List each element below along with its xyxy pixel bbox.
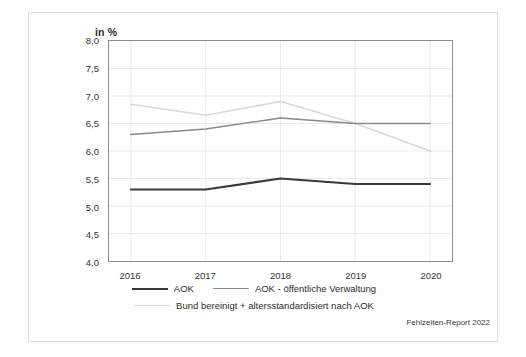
chart-legend: AOKAOK - öffentliche VerwaltungBund bere… [60, 283, 460, 317]
legend-label: AOK [174, 283, 194, 294]
chart-figure: in % 8,07,57,06,56,05,55,04,54,0 2016201… [0, 0, 526, 357]
legend-label: AOK - öffentliche Verwaltung [255, 283, 376, 294]
y-tick-label: 6,0 [86, 146, 99, 157]
legend-row: Bund bereinigt + altersstandardisiert na… [60, 300, 460, 311]
legend-item[interactable]: AOK [132, 283, 194, 294]
y-tick-label: 7,5 [86, 62, 99, 73]
y-axis-tick-labels: 8,07,57,06,56,05,55,04,54,0 [60, 34, 102, 274]
legend-line-swatch [213, 288, 249, 289]
legend-item[interactable]: Bund bereinigt + altersstandardisiert na… [134, 300, 374, 311]
legend-line-swatch [134, 305, 170, 306]
y-tick-label: 4,5 [86, 229, 99, 240]
x-tick-label: 2019 [345, 270, 366, 281]
x-tick-label: 2018 [270, 270, 291, 281]
x-tick-label: 2016 [119, 270, 140, 281]
y-tick-label: 8,0 [86, 35, 99, 46]
legend-label: Bund bereinigt + altersstandardisiert na… [176, 300, 374, 311]
y-tick-label: 7,0 [86, 90, 99, 101]
x-tick-label: 2020 [420, 270, 441, 281]
y-tick-label: 5,0 [86, 201, 99, 212]
source-note: Fehlzeiten-Report 2022 [406, 318, 490, 327]
x-tick-label: 2017 [195, 270, 216, 281]
y-tick-label: 4,0 [86, 257, 99, 268]
legend-line-swatch [132, 288, 168, 290]
y-tick-label: 6,5 [86, 118, 99, 129]
plot-area [108, 40, 453, 262]
legend-row: AOKAOK - öffentliche Verwaltung [60, 283, 460, 294]
plot-wrapper: 8,07,57,06,56,05,55,04,54,0 201620172018… [60, 34, 460, 274]
y-tick-label: 5,5 [86, 173, 99, 184]
chart-svg [109, 41, 452, 261]
legend-item[interactable]: AOK - öffentliche Verwaltung [213, 283, 376, 294]
